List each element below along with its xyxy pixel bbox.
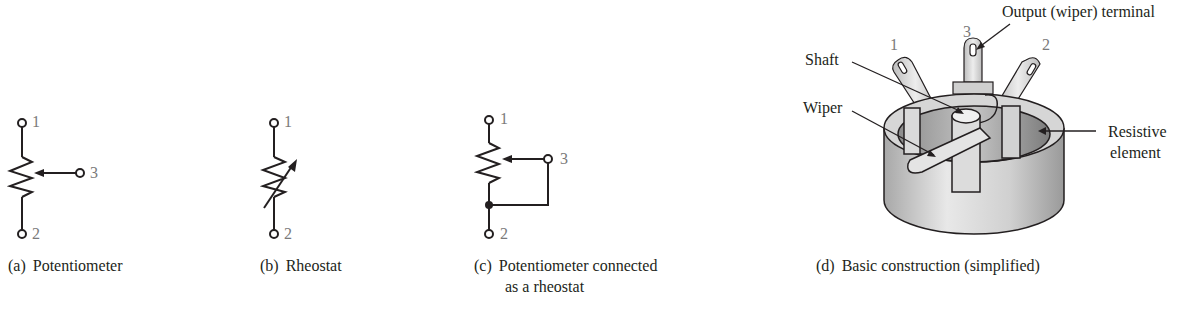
caption-text: Basic construction (simplified) [842, 257, 1040, 274]
panel-pot-as-rheostat: 1 3 2 (c)Potentiometer connected as a rh… [460, 0, 760, 323]
caption-d: (d)Basic construction (simplified) [816, 256, 1040, 275]
terminal-label-2: 2 [1042, 37, 1050, 53]
callout-shaft: Shaft [805, 50, 839, 69]
caption-a: (a)Potentiometer [8, 256, 123, 275]
terminal-label-2: 2 [32, 226, 40, 242]
panel-potentiometer: 1 3 2 (a)Potentiometer [0, 0, 200, 323]
terminal-label-1: 1 [500, 111, 508, 127]
panel-rheostat: 1 2 (b)Rheostat [230, 0, 380, 323]
terminal-label-1: 1 [284, 114, 292, 130]
terminal-label-2: 2 [500, 226, 508, 242]
panel-construction: 1 3 2 Output (wiper) terminal Shaft Wipe… [780, 0, 1201, 323]
caption-tag: (b) [260, 256, 279, 275]
terminal-label-3: 3 [90, 165, 98, 181]
callout-output-terminal: Output (wiper) terminal [1002, 2, 1155, 21]
callout-resistive-line1: Resistive [1108, 122, 1167, 141]
terminal-label-1: 1 [32, 114, 40, 130]
caption-text: Potentiometer [33, 257, 123, 274]
callout-wiper: Wiper [803, 98, 842, 117]
callout-resistive-line2: element [1110, 143, 1161, 162]
caption-tag: (d) [816, 256, 835, 275]
caption-tag: (a) [8, 256, 26, 275]
caption-c-line2: as a rheostat [505, 277, 584, 296]
caption-c: (c)Potentiometer connected [474, 256, 657, 275]
terminal-label-1: 1 [890, 37, 898, 53]
caption-text-line1: Potentiometer connected [499, 257, 658, 274]
terminal-tab-3 [953, 38, 993, 94]
caption-b: (b)Rheostat [260, 256, 342, 275]
caption-text: Rheostat [286, 257, 342, 274]
terminal-label-2: 2 [284, 226, 292, 242]
caption-text-line2: as a rheostat [505, 278, 584, 295]
terminal-label-3: 3 [963, 24, 971, 40]
caption-tag: (c) [474, 256, 492, 275]
terminal-label-3: 3 [560, 151, 568, 167]
